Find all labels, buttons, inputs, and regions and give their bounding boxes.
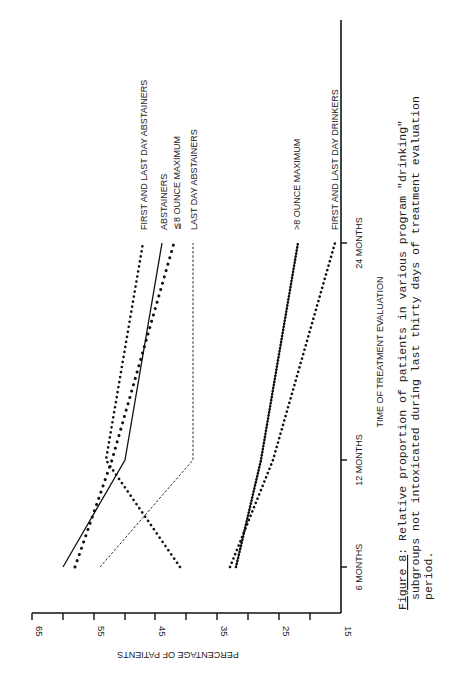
caption-line-1-text: : Relative proportion of patients in var… <box>396 120 409 555</box>
x-tick-labels: 6 MONTHS 12 MONTHS 24 MONTHS <box>354 217 364 590</box>
ytick-label: 25 <box>281 626 292 637</box>
caption-line-2: subgroups not intoxicated during last th… <box>409 96 422 600</box>
ytick-label: 55 <box>96 626 107 637</box>
caption-line-1: Figure 8: Relative proportion of patient… <box>396 120 409 610</box>
ytick-label: 15 <box>343 626 354 637</box>
x-ticks <box>341 243 347 567</box>
label-last-day-abstainers: LAST DAY ABSTAINERS <box>189 129 199 230</box>
series-last-day-abstainers <box>100 243 193 567</box>
y-axis-label: PERCENTAGE OF PATIENTS <box>117 650 239 660</box>
figure-caption: Figure 8: Relative proportion of patient… <box>396 96 435 610</box>
xtick-label: 24 MONTHS <box>354 217 364 269</box>
series-gt8-ounce-maximum-markers <box>236 243 298 567</box>
line-chart: 65 55 45 35 25 15 PERCENTAGE OF PATIENTS… <box>0 0 459 680</box>
label-first-last-day-drinkers: FIRST AND LAST DAY DRINKERS <box>330 89 340 230</box>
xtick-label: 12 MONTHS <box>354 434 364 486</box>
x-axis-label: TIME OF TREATMENT EVALUATION <box>375 276 385 427</box>
series-le8-ounce-maximum <box>75 243 174 567</box>
caption-line-3: period. <box>422 552 435 600</box>
series-first-last-day-abstainers <box>106 243 180 567</box>
y-tick-labels: 65 55 45 35 25 15 <box>34 626 354 637</box>
series-abstainers <box>63 243 162 567</box>
series-first-last-day-drinkers <box>230 243 335 567</box>
xtick-label: 6 MONTHS <box>354 544 364 591</box>
label-first-last-day-abstainers: FIRST AND LAST DAY ABSTAINERS <box>139 80 149 230</box>
y-ticks <box>32 613 310 620</box>
ytick-label: 45 <box>157 626 168 637</box>
ytick-label: 65 <box>34 626 45 637</box>
label-le8-ounce-maximum: ≦8 OUNCE MAXIMUM <box>172 136 182 230</box>
label-gt8-ounce-maximum: >8 OUNCE MAXIMUM <box>292 139 302 230</box>
series-labels: FIRST AND LAST DAY ABSTAINERS ABSTAINERS… <box>139 80 340 230</box>
series-gt8-ounce-maximum <box>236 243 298 567</box>
ytick-label: 35 <box>219 626 230 637</box>
figure-label: Figure 8 <box>396 555 409 610</box>
label-abstainers: ABSTAINERS <box>159 174 169 230</box>
